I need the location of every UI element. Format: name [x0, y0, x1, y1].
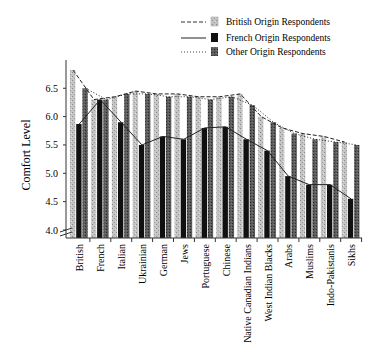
y-tick-label: 6.0 [46, 111, 59, 122]
bar-british-native-canadian-indians [237, 94, 243, 238]
y-tick-label: 4.0 [46, 225, 59, 236]
y-tick-label: 5.5 [46, 139, 59, 150]
y-tick-label: 6.5 [46, 83, 59, 94]
bar-other-sikhs [354, 145, 360, 238]
bar-french-french [97, 100, 103, 238]
bar-other-jews [187, 97, 193, 238]
bar-french-jews [181, 139, 187, 238]
legend-label-french: French Origin Respondents [226, 33, 331, 43]
x-category-label: Jews [179, 244, 190, 264]
bar-other-chinese [229, 97, 235, 238]
x-axis: BritishFrenchItalianUkrainianGermanJewsP… [66, 238, 362, 343]
x-category-label: Muslims [304, 244, 315, 279]
bar-french-west-indian-blacks [264, 151, 270, 238]
legend-swatch-other [211, 47, 218, 56]
x-category-label: Chinese [221, 243, 232, 276]
bars-group [70, 70, 360, 238]
legend-swatch-french [211, 33, 218, 42]
bar-french-british [76, 124, 82, 238]
bar-british-ukrainian [133, 91, 139, 238]
bar-french-german [160, 136, 166, 238]
legend-label-other: Other Origin Respondents [226, 47, 326, 57]
bar-french-sikhs [348, 199, 354, 238]
bar-british-german [154, 94, 160, 238]
legend-item-british: British Origin Respondents [181, 17, 330, 27]
bar-british-jews [175, 94, 181, 238]
x-category-label: Native Canadian Indians [242, 244, 253, 343]
x-category-label: German [158, 244, 169, 276]
legend-swatch-british [211, 17, 218, 26]
x-category-label: Indo-Pakistanis [325, 244, 336, 306]
bar-british-chinese [216, 97, 222, 238]
bar-other-native-canadian-indians [250, 105, 256, 238]
legend-item-french: French Origin Respondents [181, 33, 331, 43]
bar-other-ukrainian [145, 94, 151, 238]
bar-french-italian [118, 122, 124, 238]
legend-label-british: British Origin Respondents [226, 17, 330, 27]
x-category-label: Ukrainian [137, 244, 148, 284]
bar-other-italian [124, 94, 130, 238]
bar-british-sikhs [342, 142, 348, 238]
bar-other-arabs [291, 134, 297, 238]
bar-british-west-indian-blacks [258, 117, 264, 238]
x-category-label: West Indian Blacks [263, 244, 274, 322]
bar-british-indo-pakistanis [321, 136, 327, 238]
y-tick-label: 5.0 [46, 168, 59, 179]
bar-french-chinese [223, 127, 229, 238]
legend: British Origin Respondents French Origin… [181, 17, 331, 57]
bar-british-arabs [279, 128, 285, 238]
x-category-label: French [95, 244, 106, 272]
bar-other-german [166, 97, 172, 238]
bar-british-french [91, 100, 97, 238]
y-tick-label: 4.5 [46, 196, 59, 207]
bar-other-british [82, 88, 88, 238]
bar-other-muslims [312, 139, 318, 238]
x-category-label: Arabs [283, 244, 294, 268]
bar-other-portuguese [208, 100, 214, 238]
bar-french-arabs [285, 176, 291, 238]
bar-other-west-indian-blacks [271, 122, 277, 238]
bar-french-portuguese [202, 128, 208, 238]
bar-chart: British Origin Respondents French Origin… [0, 0, 368, 355]
bar-french-muslims [306, 185, 312, 238]
bar-british-british [70, 70, 76, 238]
bar-french-native-canadian-indians [243, 139, 249, 238]
y-axis-label: Comfort Level [19, 119, 33, 191]
bar-british-muslims [300, 134, 306, 238]
x-category-label: British [74, 244, 85, 271]
x-category-label: Portuguese [200, 243, 211, 288]
x-category-label: Sikhs [346, 244, 357, 266]
legend-item-other: Other Origin Respondents [181, 47, 326, 57]
bar-british-portuguese [195, 97, 201, 238]
bar-french-ukrainian [139, 145, 145, 238]
bar-other-french [103, 100, 109, 238]
x-category-label: Italian [116, 244, 127, 270]
bar-french-indo-pakistanis [327, 185, 333, 238]
y-axis: 4.04.55.05.56.06.5 [46, 60, 73, 238]
